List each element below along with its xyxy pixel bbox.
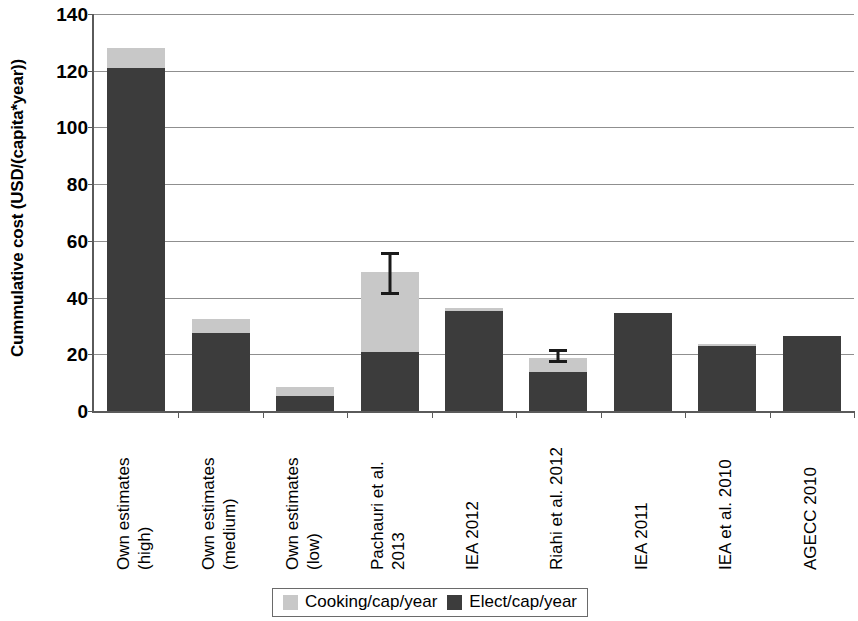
gridline <box>94 298 854 299</box>
x-axis-tick-label: Own estimates(high) <box>92 420 176 575</box>
y-axis-tick-label: 100 <box>36 118 88 137</box>
x-axis-tick-label: IEA 2012 <box>430 420 514 575</box>
bar-segment-cooking[interactable] <box>276 387 334 396</box>
gridline <box>94 184 854 185</box>
bar-segment-elect[interactable] <box>276 396 334 411</box>
gridline <box>94 71 854 72</box>
gridline <box>94 14 854 15</box>
x-axis-tick-mark <box>854 411 855 418</box>
y-axis-tick-mark <box>88 354 94 355</box>
x-axis-tick-label: Own estimates(low) <box>261 420 345 575</box>
error-bar-cap-top <box>549 349 567 352</box>
bar-segment-elect[interactable] <box>361 352 419 411</box>
x-axis-tick-label: Riahi et al. 2012 <box>514 420 598 575</box>
gridline <box>94 127 854 128</box>
legend-label: Cooking/cap/year <box>305 592 437 612</box>
bar-segment-elect[interactable] <box>783 336 841 411</box>
bar-segment-elect[interactable] <box>107 68 165 411</box>
x-axis-tick-label-text: Own estimates(medium) <box>198 420 240 570</box>
x-axis-tick-label: Pachauri et al.2013 <box>345 420 429 575</box>
bar-group[interactable] <box>614 313 672 411</box>
error-bar <box>381 252 399 295</box>
y-axis-tick-label: 120 <box>36 61 88 80</box>
y-axis-tick-mark <box>88 14 94 15</box>
x-axis-tick-mark <box>347 411 348 418</box>
bar-group[interactable] <box>192 319 250 411</box>
y-axis-title-text: Cummulative cost (USD/(capita*year)) <box>8 59 28 357</box>
y-axis-tick-labels: 140120100806040200 <box>30 0 88 420</box>
x-axis-tick-label-text: IEA et al. 2010 <box>715 420 736 570</box>
x-axis-tick-label: IEA et al. 2010 <box>683 420 767 575</box>
x-axis-tick-mark <box>432 411 433 418</box>
x-axis-tick-label-text: Own estimates(low) <box>282 420 324 570</box>
legend-swatch-cooking <box>283 595 298 610</box>
y-axis-tick-label: 140 <box>36 5 88 24</box>
bar-group[interactable] <box>276 387 334 411</box>
y-axis-tick-label: 0 <box>36 402 88 421</box>
bar-segment-cooking[interactable] <box>445 308 503 311</box>
bar-segment-cooking[interactable] <box>107 48 165 68</box>
x-axis-tick-mark <box>685 411 686 418</box>
y-axis-tick-mark <box>88 298 94 299</box>
x-axis-tick-mark <box>263 411 264 418</box>
bar-segment-elect[interactable] <box>698 346 756 411</box>
bar-segment-elect[interactable] <box>445 311 503 411</box>
bar-chart: Cummulative cost (USD/(capita*year)) 140… <box>0 0 858 621</box>
x-axis-tick-labels: Own estimates(high)Own estimates(medium)… <box>92 420 854 580</box>
y-axis-tick-label: 40 <box>36 288 88 307</box>
bar-segment-elect[interactable] <box>614 313 672 411</box>
x-axis-tick-label: AGECC 2010 <box>768 420 852 575</box>
x-axis-tick-label-text: IEA 2012 <box>461 420 482 570</box>
legend-label: Elect/cap/year <box>469 592 577 612</box>
y-axis-tick-mark <box>88 127 94 128</box>
legend: Cooking/cap/yearElect/cap/year <box>272 588 588 617</box>
y-axis-tick-label: 80 <box>36 175 88 194</box>
x-axis-tick-label: IEA 2011 <box>599 420 683 575</box>
y-axis-tick-label: 60 <box>36 231 88 250</box>
bar-segment-cooking[interactable] <box>192 319 250 333</box>
y-axis-tick-label: 20 <box>36 345 88 364</box>
bar-segment-elect[interactable] <box>529 372 587 411</box>
error-bar-cap-bottom <box>549 360 567 363</box>
y-axis-tick-mark <box>88 71 94 72</box>
y-axis-tick-mark <box>88 411 94 412</box>
x-axis-tick-mark <box>770 411 771 418</box>
x-axis-tick-label-text: IEA 2011 <box>630 420 651 570</box>
bar-group[interactable] <box>698 344 756 411</box>
error-bar-cap-bottom <box>381 292 399 295</box>
error-bar <box>549 349 567 363</box>
x-axis-tick-mark <box>601 411 602 418</box>
x-axis-tick-label-text: Pachauri et al.2013 <box>367 420 409 570</box>
x-axis-tick-label-text: AGECC 2010 <box>799 420 820 570</box>
y-axis-tick-mark <box>88 184 94 185</box>
legend-entry[interactable]: Cooking/cap/year <box>283 592 437 612</box>
bar-segment-elect[interactable] <box>192 333 250 411</box>
x-axis-tick-label-text: Own estimates(high) <box>113 420 155 570</box>
x-axis-tick-label: Own estimates(medium) <box>176 420 260 575</box>
y-axis-tick-mark <box>88 241 94 242</box>
legend-swatch-elect <box>447 595 462 610</box>
x-axis-tick-mark <box>178 411 179 418</box>
error-bar-cap-top <box>381 252 399 255</box>
bar-group[interactable] <box>107 48 165 411</box>
bar-group[interactable] <box>445 308 503 411</box>
legend-entry[interactable]: Elect/cap/year <box>447 592 577 612</box>
plot-area <box>92 14 854 413</box>
bar-group[interactable] <box>783 336 841 411</box>
x-axis-tick-label-text: Riahi et al. 2012 <box>546 420 567 570</box>
x-axis-tick-mark <box>516 411 517 418</box>
error-bar-whisker <box>388 252 391 295</box>
bar-group[interactable] <box>529 358 587 411</box>
bar-segment-cooking[interactable] <box>698 344 756 346</box>
gridline <box>94 241 854 242</box>
